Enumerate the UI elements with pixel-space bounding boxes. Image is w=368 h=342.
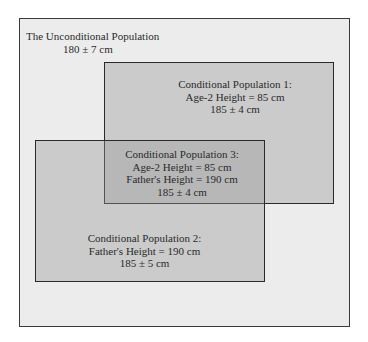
unconditional-population-label: The Unconditional Population 180 ± 7 cm xyxy=(26,30,159,55)
pop3-condition-2: Father's Height = 190 cm xyxy=(117,173,247,186)
unconditional-value: 180 ± 7 cm xyxy=(26,43,159,56)
pop1-title: Conditional Population 1: xyxy=(165,78,305,91)
pop1-condition: Age-2 Height = 85 cm xyxy=(165,91,305,104)
pop1-value: 185 ± 4 cm xyxy=(165,103,305,116)
conditional-population-1-label: Conditional Population 1: Age-2 Height =… xyxy=(165,78,305,116)
pop3-condition-1: Age-2 Height = 85 cm xyxy=(117,161,247,174)
pop2-condition: Father's Height = 190 cm xyxy=(82,245,207,258)
conditional-population-2-label: Conditional Population 2: Father's Heigh… xyxy=(82,232,207,270)
pop2-value: 185 ± 5 cm xyxy=(82,257,207,270)
pop2-title: Conditional Population 2: xyxy=(82,232,207,245)
conditional-population-3-label: Conditional Population 3: Age-2 Height =… xyxy=(117,148,247,198)
pop3-title: Conditional Population 3: xyxy=(117,148,247,161)
unconditional-title: The Unconditional Population xyxy=(26,30,159,43)
pop3-value: 185 ± 4 cm xyxy=(117,186,247,199)
